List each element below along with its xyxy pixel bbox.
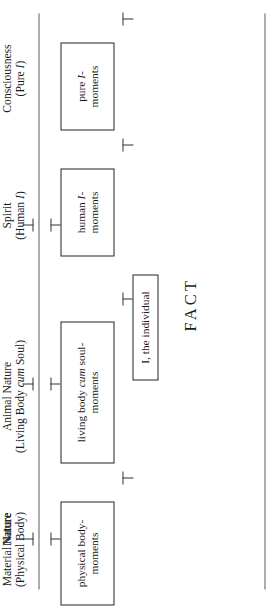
scale-label-animal-nature: Animal Nature (Living Body cum Soul) xyxy=(0,322,27,470)
axis-tick-boxrow-1 xyxy=(50,532,61,545)
axis-tick-boxrow-2 xyxy=(50,377,61,390)
scale-label-consciousness-line1: Consciousness xyxy=(0,16,13,140)
box-living-body-cum-soul-moments-text: living body cum soul-moments xyxy=(74,342,101,442)
tick-bar-icon xyxy=(32,218,33,231)
box-living-body-cum-soul-moments: living body cum soul-moments xyxy=(60,321,114,463)
box-pure-i-moments-text: pure I-moments xyxy=(74,65,101,107)
scale-label-animal-nature-line1: Animal Nature xyxy=(0,322,13,470)
tick-bar-icon xyxy=(122,292,123,305)
rotated-diagram: Material Nature (Physical Body) Animal N… xyxy=(0,0,279,613)
group-label-nature: Nature xyxy=(0,481,13,577)
box-i-the-individual: I, the individual xyxy=(132,274,158,380)
figure-canvas: Material Nature (Physical Body) Animal N… xyxy=(0,0,279,613)
lower-axis-rule xyxy=(264,13,265,589)
upper-axis-rule xyxy=(38,13,39,589)
box-human-i-moments: human I-moments xyxy=(60,168,114,256)
scale-label-spirit-line2: (Human I) xyxy=(13,172,26,258)
scale-label-spirit: Spirit (Human I) xyxy=(0,172,27,258)
axis-tick-lower-1 xyxy=(122,471,133,484)
scale-label-consciousness-line2: (Pure I) xyxy=(13,16,26,140)
tick-bar-icon xyxy=(122,471,123,484)
axis-tick-upper-3 xyxy=(22,218,33,231)
scale-label-spirit-line1: Spirit xyxy=(0,172,13,258)
axis-tick-lower-3 xyxy=(122,138,133,151)
axis-tick-upper-1 xyxy=(22,532,33,545)
axis-tick-upper-2 xyxy=(22,377,33,390)
scale-label-material-nature-line2: (Physical Body) xyxy=(13,491,26,607)
tick-bar-icon xyxy=(122,138,123,151)
tick-bar-icon xyxy=(122,12,123,25)
scale-label-consciousness: Consciousness (Pure I) xyxy=(0,16,27,140)
axis-tick-lower-4 xyxy=(122,12,133,25)
box-i-the-individual-text: I, the individual xyxy=(138,291,151,363)
box-human-i-moments-text: human I-moments xyxy=(74,191,101,233)
tick-bar-icon xyxy=(50,377,51,390)
box-physical-body-moments: physical body-moments xyxy=(60,501,114,605)
tick-bar-icon xyxy=(32,377,33,390)
axis-tick-lower-2 xyxy=(122,292,133,305)
tick-bar-icon xyxy=(50,532,51,545)
fact-label: FACT xyxy=(180,277,200,331)
box-pure-i-moments: pure I-moments xyxy=(60,42,114,130)
scale-label-animal-nature-line2: (Living Body cum Soul) xyxy=(13,322,26,470)
tick-bar-icon xyxy=(32,532,33,545)
group-label-nature-text: Nature xyxy=(0,481,13,577)
tick-bar-icon xyxy=(50,218,51,231)
box-physical-body-moments-text: physical body-moments xyxy=(74,519,101,586)
axis-tick-boxrow-3 xyxy=(50,218,61,231)
